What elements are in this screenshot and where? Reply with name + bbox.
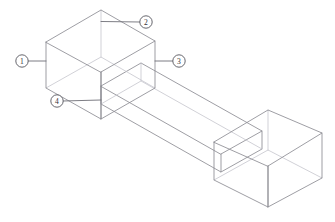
callout-3-label: 3 (177, 57, 181, 66)
callout-1[interactable]: 1 (16, 55, 28, 67)
callout-2-leader (101, 22, 140, 23)
left-block-top-face (46, 10, 155, 72)
caption-strip (0, 217, 335, 222)
callout-4-leader (63, 100, 101, 101)
left-block-front-left-face (46, 42, 101, 119)
left-block-front-right-face (101, 41, 155, 119)
connecting-bar-top-face (101, 63, 262, 154)
callout-4[interactable]: 4 (51, 95, 63, 107)
diagram-root: 1 2 3 4 (0, 0, 335, 222)
callout-1-label: 1 (20, 57, 24, 66)
connecting-bar-group (101, 63, 262, 172)
right-block-group (214, 110, 322, 207)
callout-2[interactable]: 2 (140, 16, 152, 28)
isometric-wireframe-svg: 1 2 3 4 (0, 0, 335, 222)
connecting-bar-hidden-left-end (101, 81, 141, 104)
right-block-front-right-face (268, 133, 322, 207)
right-block-front-left-face (214, 142, 268, 207)
callout-2-label: 2 (144, 18, 148, 27)
connecting-bar-hidden-far-edge (141, 63, 262, 149)
left-block-hidden-rear-bottom (46, 57, 155, 88)
connecting-bar-front-face (101, 86, 221, 172)
callout-3[interactable]: 3 (173, 55, 185, 67)
callout-4-label: 4 (55, 97, 59, 106)
